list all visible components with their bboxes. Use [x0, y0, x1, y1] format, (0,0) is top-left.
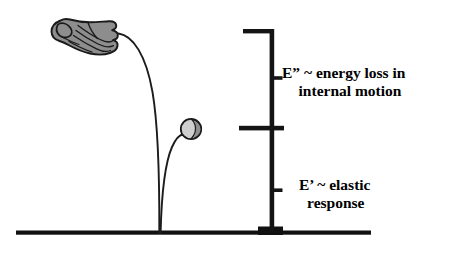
drop-path — [119, 34, 160, 234]
hand-dropping-ball — [52, 19, 118, 55]
ground-line — [16, 231, 371, 235]
annotation-elastic-response-line1: E’ ~ elastic — [299, 176, 370, 194]
ground-group — [16, 227, 371, 236]
annotation-energy-loss-line1: E” ~ energy loss in — [282, 64, 405, 82]
annotation-energy-loss: E” ~ energy loss in internal motion — [282, 64, 405, 100]
bouncing-ball — [181, 119, 201, 139]
bounce-path — [161, 134, 184, 233]
annotation-elastic-response-line2: response — [299, 194, 370, 212]
figure-canvas: E” ~ energy loss in internal motion E’ ~… — [0, 0, 463, 261]
annotation-elastic-response: E’ ~ elastic response — [299, 176, 370, 212]
scale-middle-arm — [239, 126, 284, 131]
trajectory-group — [119, 34, 184, 234]
annotation-energy-loss-line2: internal motion — [282, 82, 405, 100]
scale-vertical-bar — [270, 29, 275, 232]
diagram-illustration — [0, 0, 463, 261]
scale-top-arm — [243, 29, 271, 33]
energy-scale-bar — [239, 29, 284, 232]
scale-tick-elastic — [272, 188, 283, 192]
scale-tick-energy-loss — [272, 76, 283, 80]
